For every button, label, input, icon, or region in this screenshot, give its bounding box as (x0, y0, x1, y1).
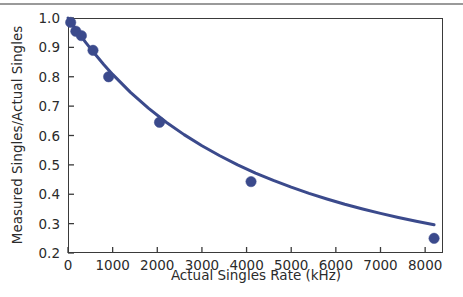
y-tick-label: 0.9 (39, 39, 60, 55)
y-tick-label: 0.8 (39, 69, 60, 85)
y-tick-label: 0.7 (39, 98, 60, 114)
y-axis-tick-labels: 0.20.30.40.50.60.70.80.91.0 (39, 10, 60, 261)
x-axis-title: Actual Singles Rate (kHz) (171, 267, 341, 283)
fit-curve-path (68, 18, 434, 225)
x-tick-label: 2000 (140, 257, 174, 273)
y-axis-ticks (68, 18, 74, 253)
data-point-marker (103, 72, 113, 82)
data-point-marker (246, 176, 256, 186)
y-tick-label: 0.2 (39, 245, 60, 261)
x-axis-ticks (68, 247, 425, 253)
data-point-marker (76, 30, 86, 40)
figure-container: 0.20.30.40.50.60.70.80.91.0 010002000300… (0, 0, 463, 297)
x-tick-label: 7000 (363, 257, 397, 273)
chart-svg: 0.20.30.40.50.60.70.80.91.0 010002000300… (0, 0, 463, 297)
y-tick-label: 0.6 (39, 128, 60, 144)
y-axis-title: Measured Singles/Actual Singles (9, 26, 25, 244)
x-tick-label: 0 (64, 257, 73, 273)
data-point-marker (154, 117, 164, 127)
y-tick-label: 0.3 (39, 216, 60, 232)
x-tick-label: 1000 (95, 257, 129, 273)
data-point-markers (65, 17, 439, 243)
data-point-marker (429, 233, 439, 243)
fitted-curve (68, 18, 434, 225)
data-point-marker (88, 45, 98, 55)
x-tick-label: 8000 (408, 257, 442, 273)
y-tick-label: 0.4 (39, 186, 60, 202)
y-tick-label: 1.0 (39, 10, 60, 26)
y-tick-label: 0.5 (39, 157, 60, 173)
